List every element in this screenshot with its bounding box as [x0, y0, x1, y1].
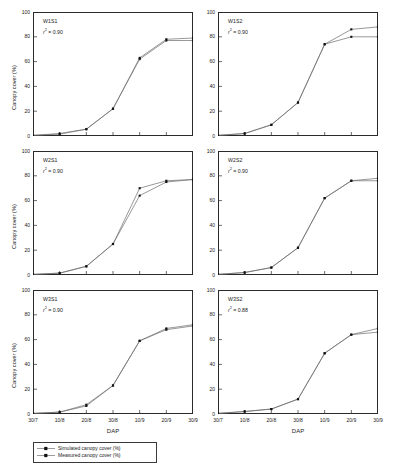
data-point — [324, 197, 326, 199]
y-tick-label: 80 — [199, 173, 215, 178]
panel-id-label: W2S1 — [43, 158, 58, 163]
data-point — [218, 273, 219, 275]
data-point — [350, 180, 352, 182]
panel-w1s2: W1S2r2 = 0.90 — [218, 12, 378, 136]
data-point — [192, 39, 193, 41]
data-point — [112, 384, 114, 386]
data-point — [377, 36, 378, 38]
data-point — [33, 134, 34, 136]
y-tick-label: 60 — [199, 59, 215, 64]
r-squared-annotation: r2 = 0.88 — [228, 307, 248, 313]
panel-w3s2: W3S2r2 = 0.88 — [218, 290, 378, 414]
data-point — [85, 128, 87, 130]
r-squared-annotation: r2 = 0.90 — [228, 168, 248, 174]
data-point — [139, 57, 141, 59]
y-tick-label: 80 — [14, 173, 30, 178]
y-tick-label: 40 — [199, 362, 215, 367]
data-point — [297, 247, 299, 249]
series-line — [218, 37, 378, 136]
data-point — [59, 132, 61, 134]
r-squared-annotation: r2 = 0.90 — [43, 307, 63, 313]
data-point — [112, 108, 114, 110]
y-tick-label: 0 — [199, 134, 215, 139]
y-tick-label: 40 — [14, 362, 30, 367]
series-line — [218, 328, 378, 413]
y-tick-label: 60 — [14, 198, 30, 203]
y-tick-label: 40 — [14, 223, 30, 228]
x-tick-label: 20/8 — [74, 418, 98, 423]
y-tick-label: 0 — [14, 273, 30, 278]
x-tick-label: 10/8 — [233, 418, 257, 423]
series-line — [218, 178, 378, 274]
y-tick-label: 100 — [14, 149, 30, 154]
panel-id-label: W2S2 — [228, 158, 243, 163]
legend-item: Measured canopy cover (%) — [36, 452, 153, 459]
data-point — [192, 37, 193, 39]
r-squared-annotation: r2 = 0.90 — [43, 29, 63, 35]
y-tick-label: 0 — [14, 134, 30, 139]
y-tick-label: 80 — [199, 34, 215, 39]
y-tick-label: 100 — [199, 149, 215, 154]
data-point — [377, 327, 378, 329]
data-point — [377, 331, 378, 333]
y-tick-label: 60 — [14, 59, 30, 64]
data-point — [297, 398, 299, 400]
data-point — [270, 267, 272, 269]
x-tick-label: 30/7 — [21, 418, 45, 423]
data-point — [139, 187, 141, 189]
data-point — [377, 177, 378, 179]
y-tick-label: 0 — [14, 412, 30, 417]
y-tick-label: 20 — [14, 248, 30, 253]
y-tick-label: 40 — [199, 84, 215, 89]
data-point — [33, 412, 34, 414]
x-tick-label: 20/8 — [259, 418, 283, 423]
y-tick-label: 80 — [14, 34, 30, 39]
data-point — [33, 273, 34, 275]
data-point — [139, 340, 141, 342]
data-point — [139, 195, 141, 197]
panel-id-label: W3S1 — [43, 297, 58, 302]
data-point — [270, 408, 272, 410]
panel-id-label: W1S2 — [228, 19, 243, 24]
line-marker-icon — [36, 445, 56, 452]
y-tick-label: 0 — [199, 273, 215, 278]
panel-grid: W1S1r2 = 0.90020406080100W1S2r2 = 0.9002… — [0, 0, 396, 471]
x-tick-label: 30/9 — [366, 418, 390, 423]
data-point — [218, 134, 219, 136]
x-tick-label: 30/7 — [206, 418, 230, 423]
data-point — [377, 180, 378, 182]
data-point — [350, 36, 352, 38]
y-tick-label: 60 — [14, 337, 30, 342]
figure-canopy-cover: Canopy cover (%) Canopy cover (%) Canopy… — [0, 0, 396, 471]
y-tick-label: 80 — [14, 312, 30, 317]
data-point — [192, 178, 193, 180]
legend-item: Simulated canopy cover (%) — [36, 445, 153, 452]
data-point — [59, 272, 61, 274]
legend: Simulated canopy cover (%) Measured cano… — [33, 442, 157, 463]
series-line — [33, 38, 193, 135]
panel-w2s1: W2S1r2 = 0.90 — [33, 151, 193, 275]
data-point — [85, 265, 87, 267]
y-tick-label: 60 — [199, 198, 215, 203]
x-tick-label: 30/8 — [101, 418, 125, 423]
y-tick-label: 100 — [199, 10, 215, 15]
r-squared-annotation: r2 = 0.90 — [43, 168, 63, 174]
y-tick-label: 20 — [14, 109, 30, 114]
data-point — [377, 26, 378, 28]
series-line — [33, 325, 193, 414]
data-point — [165, 327, 167, 329]
series-line — [218, 27, 378, 136]
data-point — [324, 43, 326, 45]
x-tick-label: 10/9 — [128, 418, 152, 423]
panel-id-label: W3S2 — [228, 297, 243, 302]
series-line — [33, 41, 193, 136]
data-point — [192, 324, 193, 326]
series-line — [33, 180, 193, 275]
x-tick-label: 20/9 — [154, 418, 178, 423]
data-point — [270, 124, 272, 126]
data-point — [350, 334, 352, 336]
panel-w1s1: W1S1r2 = 0.90 — [33, 12, 193, 136]
y-tick-label: 100 — [14, 10, 30, 15]
y-tick-label: 80 — [199, 312, 215, 317]
line-marker-icon — [36, 452, 56, 459]
